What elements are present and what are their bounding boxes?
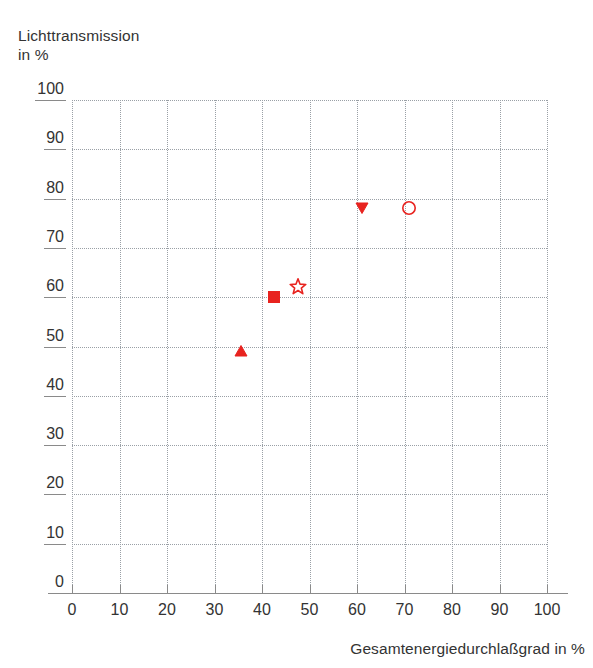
x-axis-tick-label: 60 — [337, 601, 377, 619]
x-axis-tick-label: 0 — [52, 601, 92, 619]
x-axis-tick-label: 70 — [385, 601, 425, 619]
x-axis-tick-mark — [262, 585, 263, 594]
triangle-up-point — [230, 340, 252, 362]
x-axis-tick-mark — [500, 585, 501, 594]
x-axis-tick-label: 90 — [480, 601, 520, 619]
x-axis-tick-label: 40 — [242, 601, 282, 619]
square-point — [263, 286, 285, 308]
x-axis-tick-label: 30 — [195, 601, 235, 619]
x-axis-tick-mark — [167, 585, 168, 594]
x-axis-tick-label: 50 — [290, 601, 330, 619]
x-axis-tick-labels: 0102030405060708090100 — [0, 0, 593, 668]
x-axis-tick-mark — [405, 585, 406, 594]
scatter-chart-figure: Lichttransmission in % 01020304050607080… — [0, 0, 593, 668]
x-axis-title: Gesamtenergiedurchlaßgrad in % — [0, 640, 585, 658]
x-axis-tick-label: 100 — [527, 601, 567, 619]
x-axis-tick-label: 20 — [147, 601, 187, 619]
x-axis-tick-label: 80 — [432, 601, 472, 619]
x-axis-tick-mark — [547, 585, 548, 594]
x-axis-tick-label: 10 — [100, 601, 140, 619]
star-point — [287, 276, 309, 298]
x-axis-tick-mark — [310, 585, 311, 594]
x-axis-tick-mark — [120, 585, 121, 594]
x-axis-tick-mark — [72, 585, 73, 594]
x-axis-tick-mark — [357, 585, 358, 594]
circle-point — [398, 197, 420, 219]
triangle-down-point — [351, 197, 373, 219]
x-axis-tick-mark — [215, 585, 216, 594]
x-axis-tick-mark — [452, 585, 453, 594]
